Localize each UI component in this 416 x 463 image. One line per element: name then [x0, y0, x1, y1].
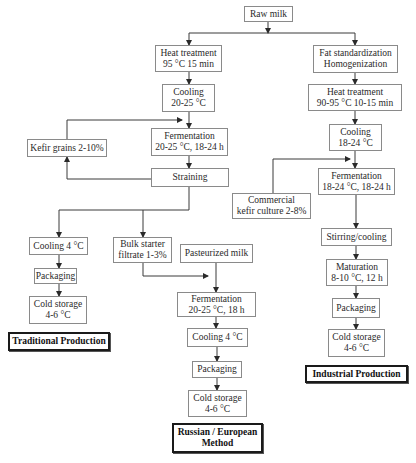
- pasteurized-milk-node: Pasteurized milk: [180, 244, 253, 263]
- fat-standardization-node: Fat standardization Homogenization: [313, 45, 398, 73]
- node-text: Cold storage: [332, 332, 380, 343]
- node-text: Cooling 4 °C: [33, 241, 83, 252]
- node-text: 4-6 °C: [205, 404, 230, 415]
- node-text: Fat standardization: [319, 48, 392, 59]
- node-text: Fermentation: [191, 294, 242, 305]
- node-text: 20-25 °C, 18 h: [188, 305, 244, 316]
- node-text: Cooling: [173, 87, 204, 98]
- node-text: Packaging: [197, 364, 237, 375]
- stirring-cooling-node: Stirring/cooling: [321, 228, 392, 246]
- node-text: Industrial Production: [312, 369, 400, 380]
- node-text: Cold storage: [193, 393, 241, 404]
- node-text: 90-95 °C 10-15 min: [317, 98, 393, 109]
- node-text: Russian / European: [178, 427, 258, 438]
- node-text: 95 °C 15 min: [163, 59, 214, 70]
- straining-node: Straining: [151, 168, 229, 187]
- maturation-node: Maturation 8-10 °C, 12 h: [326, 259, 388, 286]
- node-text: 20-25 °C, 18-24 h: [155, 142, 224, 153]
- kefir-grains-node: Kefir grains 2-10%: [27, 139, 107, 157]
- packaging-russian-node: Packaging: [192, 361, 242, 378]
- node-text: Maturation: [336, 262, 378, 273]
- fermentation-russian-node: Fermentation 20-25 °C, 18 h: [177, 292, 256, 317]
- node-text: Heat treatment: [327, 87, 383, 98]
- bulk-starter-node: Bulk starter filtrate 1-3%: [113, 237, 172, 263]
- node-text: 18-24 °C: [338, 138, 373, 149]
- heat-treatment-industrial-node: Heat treatment 90-95 °C 10-15 min: [308, 84, 402, 111]
- traditional-production-label: Traditional Production: [8, 332, 110, 351]
- node-text: Cooling 4 °C: [192, 332, 242, 343]
- node-text: 4-6 °C: [344, 343, 369, 354]
- node-text: Traditional Production: [12, 336, 105, 347]
- raw-milk-node: Raw milk: [244, 6, 293, 22]
- cooling-4c-russian-node: Cooling 4 °C: [187, 328, 248, 347]
- node-text: 8-10 °C, 12 h: [331, 273, 382, 284]
- node-text: Kefir grains 2-10%: [30, 143, 103, 154]
- node-text: 20-25 °C: [171, 98, 206, 109]
- node-text: Pasteurized milk: [185, 248, 249, 259]
- node-text: Straining: [173, 172, 208, 183]
- heat-treatment-traditional-node: Heat treatment 95 °C 15 min: [155, 45, 222, 72]
- node-text: Method: [202, 438, 234, 449]
- node-text: Fermentation: [164, 131, 215, 142]
- cooling-industrial-node: Cooling 18-24 °C: [329, 124, 382, 151]
- fermentation-traditional-node: Fermentation 20-25 °C, 18-24 h: [151, 128, 228, 156]
- fermentation-industrial-node: Fermentation 18-24 °C, 18-24 h: [318, 168, 395, 195]
- node-text: 4-6 °C: [45, 310, 70, 321]
- node-text: Packaging: [336, 303, 376, 314]
- node-text: Commercial: [248, 195, 295, 206]
- cold-storage-traditional-node: Cold storage 4-6 °C: [29, 296, 87, 324]
- node-text: kefir culture 2-8%: [237, 206, 307, 217]
- packaging-traditional-node: Packaging: [34, 268, 77, 284]
- node-text: Raw milk: [250, 9, 287, 20]
- node-text: Bulk starter: [120, 239, 165, 250]
- node-text: filtrate 1-3%: [118, 250, 166, 261]
- node-text: Stirring/cooling: [326, 232, 386, 243]
- node-text: 18-24 °C, 18-24 h: [322, 182, 391, 193]
- cold-storage-russian-node: Cold storage 4-6 °C: [188, 390, 247, 417]
- packaging-industrial-node: Packaging: [332, 298, 380, 318]
- cooling-traditional-node: Cooling 20-25 °C: [162, 84, 215, 112]
- kefir-production-flowchart: Raw milk Heat treatment 95 °C 15 min Coo…: [0, 0, 416, 463]
- node-text: Cooling: [340, 127, 371, 138]
- node-text: Homogenization: [324, 59, 387, 70]
- node-text: Fermentation: [331, 171, 382, 182]
- russian-european-method-label: Russian / European Method: [172, 423, 263, 453]
- commercial-kefir-culture-node: Commercial kefir culture 2-8%: [232, 193, 311, 219]
- cold-storage-industrial-node: Cold storage 4-6 °C: [328, 329, 385, 357]
- industrial-production-label: Industrial Production: [305, 365, 408, 383]
- node-text: Cold storage: [34, 299, 82, 310]
- node-text: Packaging: [36, 271, 76, 282]
- cooling-4c-traditional-node: Cooling 4 °C: [29, 237, 88, 255]
- node-text: Heat treatment: [160, 48, 216, 59]
